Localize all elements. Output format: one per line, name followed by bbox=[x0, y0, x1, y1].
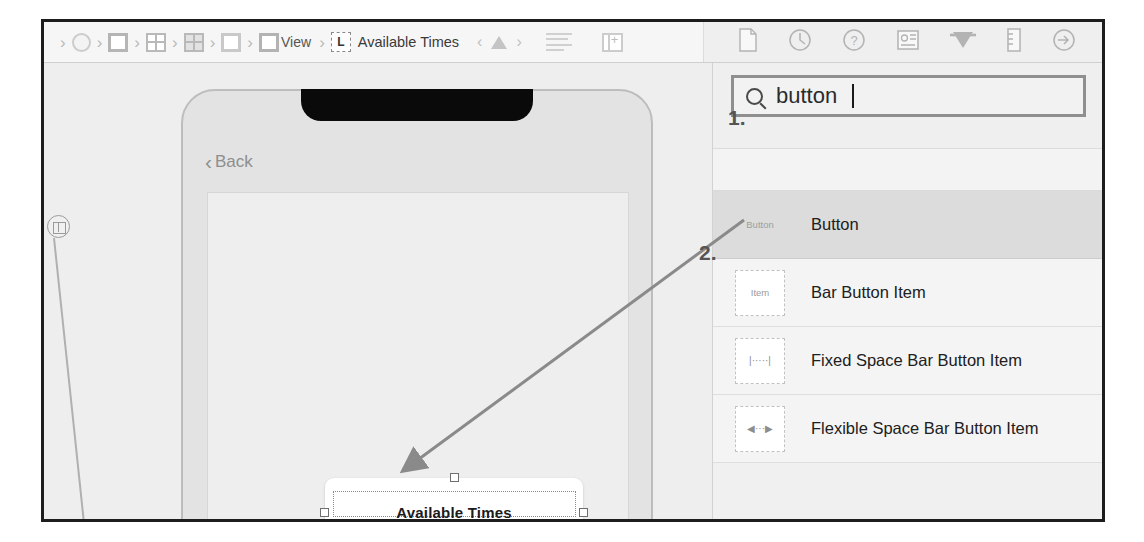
label-type-badge: L bbox=[331, 32, 351, 52]
text-cursor bbox=[852, 84, 854, 108]
scene-grid-icon[interactable] bbox=[184, 33, 204, 52]
document-lines-icon[interactable] bbox=[546, 33, 572, 51]
design-canvas[interactable]: ‹ Back Available Times bbox=[44, 63, 712, 522]
inspector-tab-strip: ? bbox=[703, 22, 1102, 62]
chevron-left-icon: ‹ bbox=[205, 151, 212, 172]
next-issue-button[interactable]: › bbox=[516, 34, 521, 50]
previous-issue-button[interactable]: ‹ bbox=[477, 34, 482, 50]
search-icon bbox=[746, 88, 763, 105]
constraint-guide-line bbox=[53, 238, 88, 522]
resize-handle-top[interactable] bbox=[450, 473, 459, 482]
list-item-label: Button bbox=[811, 215, 859, 234]
target-square-icon[interactable] bbox=[108, 33, 128, 52]
identity-inspector-icon[interactable] bbox=[896, 29, 920, 55]
list-item[interactable]: ◀···▶ Flexible Space Bar Button Item bbox=[713, 395, 1102, 463]
attributes-inspector-icon[interactable] bbox=[950, 28, 976, 56]
file-inspector-icon[interactable] bbox=[738, 28, 758, 56]
button-thumbnail-icon: Button bbox=[735, 202, 785, 248]
library-results-spacer bbox=[713, 149, 1102, 191]
flexible-space-thumbnail-icon: ◀···▶ bbox=[735, 406, 785, 452]
project-circle-icon[interactable] bbox=[72, 33, 91, 52]
list-item-label: Bar Button Item bbox=[811, 283, 926, 302]
library-search-row: button bbox=[713, 63, 1102, 149]
issue-navigation-group: ‹ › bbox=[459, 34, 522, 50]
resize-handle-left[interactable] bbox=[320, 508, 329, 517]
device-notch bbox=[301, 89, 533, 121]
annotation-step-1: 1. bbox=[728, 106, 746, 130]
available-times-label: Available Times bbox=[325, 478, 583, 522]
breadcrumb: › › › › › › View › L Available Times ‹ bbox=[44, 22, 623, 62]
available-times-card[interactable]: Available Times bbox=[325, 478, 583, 522]
object-library-panel: button Button Button Item Bar Button Ite… bbox=[712, 63, 1102, 522]
breadcrumb-item-view[interactable]: View bbox=[279, 34, 313, 50]
list-item[interactable]: Item Bar Button Item bbox=[713, 259, 1102, 327]
back-button-label: Back bbox=[215, 152, 253, 172]
warning-triangle-icon[interactable] bbox=[491, 36, 507, 49]
list-item[interactable]: Button Button bbox=[713, 191, 1102, 259]
content-view-frame bbox=[207, 192, 629, 522]
screenshot-root: › › › › › › View › L Available Times ‹ bbox=[0, 0, 1144, 542]
quick-help-inspector-icon[interactable]: ? bbox=[842, 28, 866, 56]
breadcrumb-item-available-times[interactable]: Available Times bbox=[358, 34, 459, 50]
history-inspector-icon[interactable] bbox=[788, 28, 812, 56]
resize-handle-right[interactable] bbox=[579, 508, 588, 517]
list-item-label: Flexible Space Bar Button Item bbox=[811, 419, 1038, 438]
search-input[interactable]: button bbox=[731, 75, 1086, 117]
breadcrumb-separator-icon: › bbox=[166, 34, 184, 51]
svg-text:?: ? bbox=[850, 33, 857, 48]
xcode-window: › › › › › › View › L Available Times ‹ bbox=[41, 19, 1105, 522]
jump-bar-toolbar: › › › › › › View › L Available Times ‹ bbox=[44, 22, 1102, 63]
viewcontroller-square-icon[interactable] bbox=[221, 33, 241, 52]
fixed-space-thumbnail-icon: |·····| bbox=[735, 338, 785, 384]
add-panel-icon[interactable] bbox=[602, 33, 623, 52]
breadcrumb-separator-icon: › bbox=[204, 34, 222, 51]
list-item-label: Fixed Space Bar Button Item bbox=[811, 351, 1022, 370]
view-square-icon[interactable] bbox=[259, 33, 279, 52]
breadcrumb-separator-icon: › bbox=[128, 34, 146, 51]
back-button[interactable]: ‹ Back bbox=[205, 151, 253, 172]
iphone-device-mockup: ‹ Back bbox=[181, 89, 653, 522]
annotation-step-2: 2. bbox=[699, 241, 717, 265]
breadcrumb-separator-icon: › bbox=[91, 34, 109, 51]
size-inspector-icon[interactable] bbox=[1006, 28, 1022, 56]
connections-inspector-icon[interactable] bbox=[1052, 28, 1076, 56]
breadcrumb-separator-icon: › bbox=[241, 34, 259, 51]
breadcrumb-separator-icon: › bbox=[313, 34, 331, 51]
breadcrumb-separator-icon: › bbox=[54, 34, 72, 51]
storyboard-grid-icon[interactable] bbox=[146, 33, 166, 52]
list-item[interactable]: |·····| Fixed Space Bar Button Item bbox=[713, 327, 1102, 395]
leading-constraint-icon[interactable] bbox=[47, 215, 70, 238]
bar-button-item-thumbnail-icon: Item bbox=[735, 270, 785, 316]
search-input-value: button bbox=[776, 83, 837, 109]
